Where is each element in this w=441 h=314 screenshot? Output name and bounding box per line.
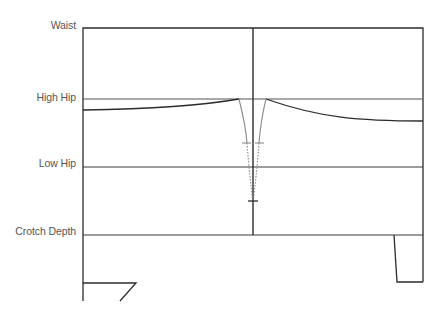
dart-right-dotted-extension — [254, 143, 260, 200]
dart-left-leg — [239, 99, 247, 143]
dart-right-leg — [259, 99, 266, 143]
leg-extension-right — [394, 235, 423, 282]
dart-left-dotted-extension — [247, 143, 253, 200]
pattern-diagram — [0, 0, 441, 314]
right-hip-curve — [266, 99, 423, 121]
crotch-extension-left — [83, 283, 136, 301]
left-hip-curve — [83, 99, 239, 110]
leg-extension-right-path — [394, 235, 423, 282]
crotch-extension-left-path — [83, 283, 136, 301]
